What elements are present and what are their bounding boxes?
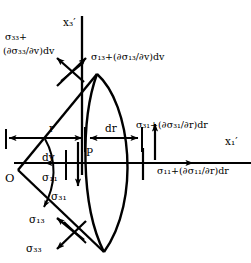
top-shear-stress-label: σ₁₃+(∂σ₁₃/∂v)dv — [91, 52, 164, 62]
x1-prime-axis-label: x₁′ — [225, 136, 238, 147]
outer-shear-stress-label: σ₃₁+(∂σ₃₁/∂r)dr — [136, 120, 208, 130]
x3-prime-axis-label: x₃′ — [63, 17, 76, 28]
inner-normal-stress-label: σ₁₁ — [42, 172, 58, 183]
radius-label: r — [49, 123, 54, 134]
element-point-label: P — [86, 147, 93, 158]
inner-shear-stress-label: σ₃₁ — [51, 191, 67, 202]
top-normal-stress-label-line2: (∂σ₃₃/∂v)dv — [3, 46, 54, 56]
radius-dimension-line — [6, 127, 142, 152]
stress-element-figure: x₃′ σ₃₃+ (∂σ₃₃/∂v)dv σ₁₃+(∂σ₁₃/∂v)dv r d… — [0, 0, 251, 263]
top-normal-stress-label-line1: σ₃₃+ — [5, 32, 27, 42]
radius-increment-label: dr — [105, 123, 117, 134]
bottom-normal-stress-arrow — [57, 221, 86, 249]
bottom-shear-stress-label: σ₁₃ — [29, 214, 45, 225]
origin-label: O — [5, 172, 14, 184]
angle-increment-label: dv — [42, 152, 55, 163]
bottom-normal-stress-label: σ₃₃ — [26, 243, 42, 254]
outer-normal-stress-label: σ₁₁+(∂σ₁₁/∂r)dr — [157, 166, 229, 176]
top-normal-stress-arrow — [57, 58, 84, 82]
